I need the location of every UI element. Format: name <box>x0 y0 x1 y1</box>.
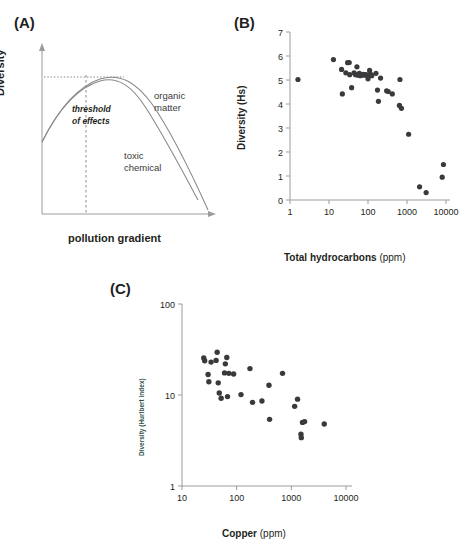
panel-c-y-tick-label: 1 <box>170 482 175 492</box>
panel-c-data-point <box>206 379 211 384</box>
panel-c-data-point <box>214 350 219 355</box>
panel-b-x-axis-label-unit: (ppm) <box>379 252 405 263</box>
panel-c-x-tick-label: 10 <box>177 493 187 503</box>
panel-a-y-axis-arrow <box>39 43 45 51</box>
panel-b-data-point <box>397 77 402 82</box>
panel-b-plot-area: 01234567110100100010000 <box>274 28 452 218</box>
panel-c-y-axis-label: Diversity (Hurlbert index) <box>138 378 145 456</box>
panel-b-label: (B) <box>234 14 255 31</box>
panel-c-data-point <box>208 359 213 364</box>
panel-b-data-point <box>376 99 381 104</box>
panel-b-data-point <box>349 85 354 90</box>
panel-b-y-tick-label: 2 <box>278 148 283 158</box>
panel-c-data-point <box>231 371 236 376</box>
panel-b-data-point <box>373 71 378 76</box>
panel-b-x-axis-label: Total hydrocarbons (ppm) <box>284 252 406 263</box>
panel-b-y-tick-label: 7 <box>278 28 283 38</box>
panel-b-data-point <box>378 75 383 80</box>
panel-b-y-tick-label: 5 <box>278 76 283 86</box>
panel-c-y-tick-label: 100 <box>160 300 175 310</box>
panel-c-data-point <box>224 355 229 360</box>
panel-a-x-axis-arrow <box>208 211 216 217</box>
panel-c-data-point <box>322 421 327 426</box>
panel-a-y-axis-label: Diversity <box>0 50 6 96</box>
panel-b-y-tick-label: 3 <box>278 124 283 134</box>
panel-c-data-point <box>299 435 304 440</box>
panel-b-data-point <box>399 106 404 111</box>
panel-c-data-point <box>292 404 297 409</box>
panel-a-plot-area: threshold of effects organic matter toxi… <box>28 42 218 222</box>
panel-c-data-point <box>223 361 228 366</box>
panel-c-svg: 11010010100100010000 <box>166 300 362 500</box>
panel-c: (C) Diversity (Hurlbert index) 110100101… <box>104 276 472 545</box>
panel-c-data-point <box>202 358 207 363</box>
panel-c-x-axis-label: Copper (ppm) <box>222 528 286 539</box>
panel-b-x-axis-label-name: Total hydrocarbons <box>284 252 379 263</box>
panel-c-data-point <box>218 396 223 401</box>
panel-b-y-tick-label: 1 <box>278 172 283 182</box>
panel-a-annotation-organic-line1: organic <box>154 90 185 101</box>
panel-c-data-point <box>225 394 230 399</box>
panel-c-x-tick-label: 10000 <box>333 493 358 503</box>
panel-c-data-point <box>238 392 243 397</box>
panel-b-data-point <box>354 64 359 69</box>
panel-c-data-point <box>295 396 300 401</box>
panel-c-data-point <box>247 366 252 371</box>
panel-c-data-point <box>266 383 271 388</box>
panel-b-data-point <box>406 132 411 137</box>
panel-c-x-axis-label-name: Copper <box>222 528 260 539</box>
panel-a-annotation-toxic-line2: chemical <box>124 162 162 173</box>
panel-b-svg: 01234567110100100010000 <box>274 28 452 218</box>
panel-c-data-point <box>216 380 221 385</box>
panel-c-x-tick-label: 100 <box>229 493 244 503</box>
panel-b-x-tick-label: 1 <box>287 207 292 217</box>
panel-c-y-tick-label: 10 <box>165 391 175 401</box>
panel-c-data-point <box>217 390 222 395</box>
panel-c-plot-area: 11010010100100010000 <box>166 300 362 500</box>
panel-b-data-point <box>424 190 429 195</box>
panel-b-y-tick-label: 6 <box>278 52 283 62</box>
panel-c-x-axis-label-unit: (ppm) <box>260 528 286 539</box>
panel-c-label: (C) <box>110 280 131 297</box>
panel-a-label: (A) <box>14 14 35 31</box>
panel-a-annotation-threshold: threshold of effects <box>72 104 111 127</box>
panel-c-x-tick-label: 1000 <box>281 493 301 503</box>
panel-a-annotation-organic-line2: matter <box>154 102 181 113</box>
panel-a-annotation-organic-matter: organic matter <box>154 90 185 113</box>
panel-c-data-point <box>302 419 307 424</box>
panel-b-data-point <box>417 184 422 189</box>
panel-c-data-point <box>259 398 264 403</box>
panel-a-annotation-threshold-line1: threshold <box>72 104 111 114</box>
panel-b-data-point <box>340 91 345 96</box>
panel-a-annotation-threshold-line2: of effects <box>72 116 110 126</box>
panel-b-data-point <box>375 87 380 92</box>
panel-b-data-point <box>390 91 395 96</box>
panel-b-x-tick-label: 10 <box>324 207 334 217</box>
panel-c-data-point <box>226 371 231 376</box>
panel-c-data-point <box>205 372 210 377</box>
panel-c-data-point <box>280 371 285 376</box>
panel-a-svg <box>28 42 218 222</box>
panel-b-x-tick-label: 1000 <box>397 207 417 217</box>
panel-b-y-tick-label: 0 <box>278 196 283 206</box>
panel-b-data-point <box>347 60 352 65</box>
panel-b-y-tick-label: 4 <box>278 100 283 110</box>
panel-b-x-tick-label: 10000 <box>433 207 458 217</box>
panel-b-data-point <box>441 162 446 167</box>
panel-a-annotation-toxic-line1: toxic <box>124 150 144 161</box>
panel-a-x-axis-label: pollution gradient <box>68 232 161 244</box>
panel-b-x-tick-label: 100 <box>360 207 375 217</box>
panel-b-data-point <box>339 67 344 72</box>
panel-a: (A) Diversity threshold of effects organ… <box>0 0 236 268</box>
panel-b: (B) Diversity (Hs) 012345671101001000100… <box>228 0 472 272</box>
panel-c-data-point <box>267 417 272 422</box>
panel-b-data-point <box>295 77 300 82</box>
panel-b-y-axis-label: Diversity (Hs) <box>236 86 247 150</box>
panel-c-data-point <box>250 400 255 405</box>
panel-b-data-point <box>440 175 445 180</box>
panel-c-data-point <box>213 358 218 363</box>
panel-a-annotation-toxic-chemical: toxic chemical <box>124 150 162 173</box>
panel-b-data-point <box>331 57 336 62</box>
